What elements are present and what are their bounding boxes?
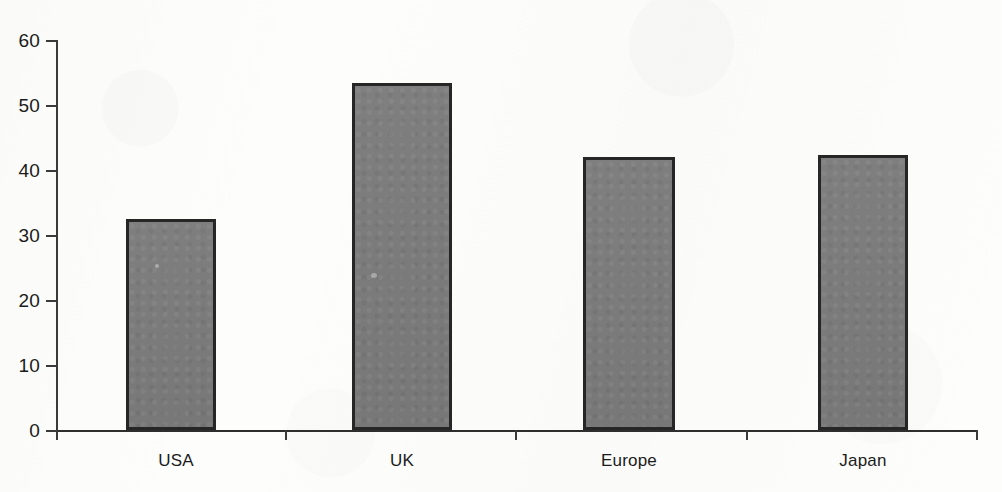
y-tick-label-60: 60	[0, 31, 40, 50]
x-category-label-uk: UK	[342, 452, 462, 469]
y-tick-label-40: 40	[0, 161, 40, 180]
x-tick-2	[515, 430, 517, 440]
bar-usa	[126, 219, 216, 430]
bar-uk	[352, 83, 452, 430]
y-tick-30	[46, 235, 56, 237]
y-tick-10	[46, 365, 56, 367]
y-tick-label-50: 50	[0, 96, 40, 115]
plot-area: 60 50 40 30 20 10 0 USA UK Europe Japan	[0, 0, 1002, 492]
x-category-label-usa: USA	[116, 452, 236, 469]
bar-europe	[583, 157, 675, 430]
x-tick-3	[746, 430, 748, 440]
x-tick-4	[976, 430, 978, 440]
y-tick-60	[46, 40, 56, 42]
x-axis-line	[56, 430, 978, 432]
y-tick-20	[46, 300, 56, 302]
y-tick-40	[46, 170, 56, 172]
bar-japan	[818, 155, 908, 430]
x-category-label-europe: Europe	[569, 452, 689, 469]
y-tick-label-30: 30	[0, 226, 40, 245]
y-tick-0	[46, 430, 56, 432]
y-tick-label-20: 20	[0, 291, 40, 310]
bar-chart: 60 50 40 30 20 10 0 USA UK Europe Japan	[0, 0, 1002, 492]
y-tick-label-10: 10	[0, 356, 40, 375]
x-category-label-japan: Japan	[803, 452, 923, 469]
y-axis-line	[56, 40, 58, 432]
y-tick-label-0: 0	[0, 421, 40, 440]
y-tick-50	[46, 105, 56, 107]
x-tick-0	[56, 430, 58, 440]
x-tick-1	[285, 430, 287, 440]
